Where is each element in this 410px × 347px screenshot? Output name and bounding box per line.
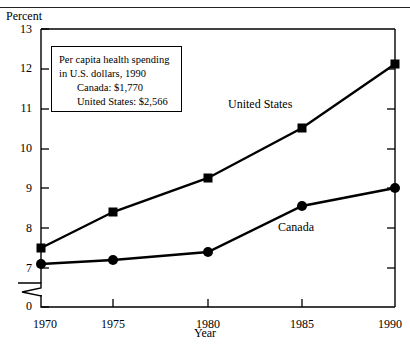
series-label-canada: Canada — [278, 221, 314, 233]
annotation-box: Per capita health spending in U.S. dolla… — [51, 46, 182, 112]
annotation-line-4: United States: $2,566 — [59, 95, 181, 109]
annotation-line-3: Canada: $1,770 — [59, 81, 181, 95]
annotation-line-2: in U.S. dollars, 1990 — [59, 67, 181, 81]
series-label-united-states: United States — [228, 98, 292, 110]
series-canada — [36, 183, 400, 269]
annotation-line-1: Per capita health spending — [59, 53, 181, 67]
axis-break-icon — [18, 283, 41, 296]
